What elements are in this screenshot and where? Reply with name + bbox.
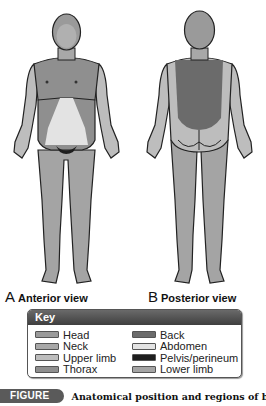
anterior-body-figure (0, 0, 133, 290)
legend-key: Key Head Neck Upper limb Thorax Back Abd… (27, 309, 242, 378)
view-letter-b: B (148, 288, 158, 305)
legend-label: Back (160, 329, 184, 341)
legend-label: Abdomen (160, 340, 207, 352)
legend-item: Neck (35, 341, 132, 353)
legend-item: Back (132, 329, 229, 341)
swatch-pelvis (132, 354, 156, 361)
legend-label: Neck (63, 340, 88, 352)
swatch-upper-limb (35, 354, 59, 361)
legend-item: Lower limb (132, 364, 229, 376)
swatch-head (35, 331, 59, 338)
legend-label: Upper limb (63, 352, 116, 364)
swatch-lower-limb (132, 366, 156, 373)
legend-label: Thorax (63, 363, 97, 375)
caption-text: Anatomical position and regions of body. (72, 391, 266, 402)
legend-item: Upper limb (35, 352, 132, 364)
view-title-a: Anterior view (18, 292, 88, 304)
legend-item: Pelvis/perineum (132, 352, 229, 364)
anterior-view-label: AAnterior view (5, 288, 88, 305)
head-region (185, 11, 215, 49)
swatch-thorax (35, 366, 59, 373)
lower-limb-region (38, 150, 95, 283)
legend-label: Head (63, 329, 89, 341)
legend-item: Thorax (35, 364, 132, 376)
upper-limb-right (95, 64, 119, 158)
swatch-neck (35, 343, 59, 350)
swatch-abdomen (132, 343, 156, 350)
upper-limb-left (14, 64, 38, 158)
legend-item: Abdomen (132, 341, 229, 353)
lower-limb-region (171, 140, 228, 283)
key-title: Key (28, 310, 241, 325)
legend-label: Lower limb (160, 363, 213, 375)
view-letter-a: A (5, 288, 15, 305)
neck-region (191, 48, 208, 60)
legend-label: Pelvis/perineum (160, 352, 238, 364)
figure-caption: FIGURE I.1. Anatomical position and regi… (0, 388, 266, 404)
legend-item: Head (35, 329, 132, 341)
posterior-view-label: BPosterior view (148, 288, 236, 305)
figure-number-tag: FIGURE I.1. (0, 389, 64, 403)
posterior-body-figure (133, 0, 266, 290)
view-title-b: Posterior view (161, 292, 236, 304)
swatch-back (132, 331, 156, 338)
back-region (175, 60, 223, 130)
